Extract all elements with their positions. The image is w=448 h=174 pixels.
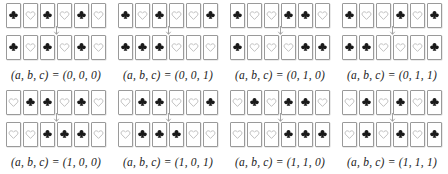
heart-suit-icon [93,129,104,140]
card-heart [169,3,184,28]
card-club [135,35,150,60]
card-club [74,35,89,60]
card-club [23,90,38,115]
input-card-sequence [6,3,106,28]
club-suit-icon [120,42,131,53]
heart-suit-icon [344,97,355,108]
output-card-sequence [230,35,330,60]
panel-5: (a, b, c) = (1, 0, 1) [112,87,224,174]
input-card-sequence [6,90,106,115]
club-suit-icon [76,42,87,53]
card-heart [410,90,425,115]
card-club [6,3,21,28]
card-club [152,35,167,60]
panel-0: (a, b, c) = (0, 0, 0) [0,0,112,87]
output-card-sequence [342,122,442,147]
heart-suit-icon [8,97,19,108]
club-suit-icon [59,129,70,140]
card-club [427,35,442,60]
card-heart [57,3,72,28]
heart-suit-icon [137,10,148,21]
club-suit-icon [154,129,165,140]
club-suit-icon [283,97,294,108]
heart-suit-icon [266,10,277,21]
heart-suit-icon [378,129,389,140]
card-club [118,35,133,60]
card-heart [57,90,72,115]
card-club [203,3,218,28]
card-club [298,3,313,28]
card-club [203,90,218,115]
card-club [74,90,89,115]
club-suit-icon [232,42,243,53]
output-card-sequence [6,122,106,147]
heart-suit-icon [25,10,36,21]
club-suit-icon [154,42,165,53]
club-suit-icon [300,42,311,53]
card-heart [118,122,133,147]
heart-suit-icon [232,97,243,108]
card-heart [203,35,218,60]
card-club [393,122,408,147]
card-heart [264,3,279,28]
heart-suit-icon [93,97,104,108]
card-club [298,35,313,60]
card-heart [247,3,262,28]
panel-3: (a, b, c) = (0, 1, 1) [336,0,448,87]
heart-suit-icon [317,97,328,108]
heart-suit-icon [378,97,389,108]
card-heart [247,35,262,60]
heart-suit-icon [171,42,182,53]
card-club [247,90,262,115]
club-suit-icon [300,97,311,108]
card-heart [376,122,391,147]
card-club [169,122,184,147]
card-heart [57,35,72,60]
heart-suit-icon [378,42,389,53]
heart-suit-icon [266,129,277,140]
card-club [118,3,133,28]
heart-suit-icon [317,10,328,21]
card-heart [342,122,357,147]
panel-caption: (a, b, c) = (0, 0, 0) [11,69,101,81]
card-club [230,35,245,60]
card-club [342,35,357,60]
card-club [152,90,167,115]
card-heart [376,35,391,60]
heart-suit-icon [412,129,423,140]
card-club [359,90,374,115]
club-suit-icon [283,129,294,140]
club-suit-icon [42,97,53,108]
club-suit-icon [154,97,165,108]
heart-suit-icon [378,10,389,21]
card-club [135,122,150,147]
club-suit-icon [395,129,406,140]
club-suit-icon [344,10,355,21]
panel-caption: (a, b, c) = (1, 1, 0) [235,156,325,168]
input-card-sequence [230,3,330,28]
card-heart [410,122,425,147]
card-club [359,122,374,147]
heart-suit-icon [25,129,36,140]
heart-suit-icon [395,42,406,53]
heart-suit-icon [412,97,423,108]
club-suit-icon [171,129,182,140]
panel-caption: (a, b, c) = (1, 0, 1) [123,156,213,168]
heart-suit-icon [93,10,104,21]
card-club [74,122,89,147]
club-suit-icon [361,42,372,53]
card-club [315,35,330,60]
heart-suit-icon [266,42,277,53]
card-heart [264,35,279,60]
heart-suit-icon [412,42,423,53]
heart-suit-icon [25,42,36,53]
card-club [427,90,442,115]
card-club [427,122,442,147]
panel-4: (a, b, c) = (1, 0, 0) [0,87,112,174]
club-suit-icon [205,97,216,108]
card-heart [186,3,201,28]
club-suit-icon [42,129,53,140]
card-heart [91,35,106,60]
heart-suit-icon [361,10,372,21]
club-suit-icon [300,129,311,140]
